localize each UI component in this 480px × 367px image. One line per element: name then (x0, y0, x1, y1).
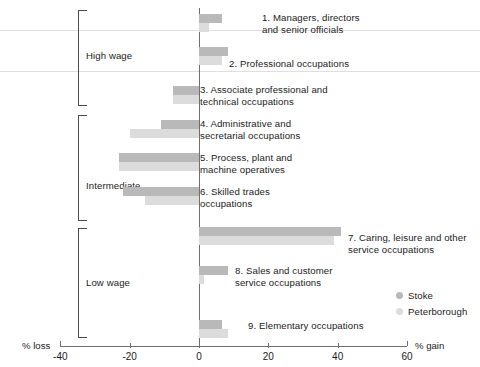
legend-label-peterborough: Peterborough (408, 306, 467, 317)
x-tick-20 (268, 343, 269, 348)
occupation-label-1: 1. Managers, directors and senior offici… (262, 12, 412, 35)
axis-caption-gain: % gain (415, 340, 444, 351)
bar-stoke-row-8 (199, 266, 228, 275)
bar-peterborough-row-5 (119, 162, 199, 171)
x-tick--40 (60, 341, 61, 346)
bar-peterborough-row-3 (173, 95, 199, 104)
occupation-label-2: 2. Professional occupations (229, 58, 429, 70)
bar-peterborough-row-7 (199, 236, 334, 245)
x-tick-0 (199, 343, 200, 348)
occupation-label-3: 3. Associate professional and technical … (200, 84, 370, 107)
occupation-label-8: 8. Sales and customer service occupation… (235, 265, 405, 288)
legend-label-stoke: Stoke (408, 290, 433, 301)
bar-stoke-row-4 (161, 120, 199, 129)
occupation-label-9: 9. Elementary occupations (248, 320, 428, 332)
x-tick-label--40: -40 (53, 351, 67, 362)
occupation-label-7: 7. Caring, leisure and other service occ… (348, 232, 480, 255)
bar-peterborough-row-4 (130, 129, 199, 138)
bar-peterborough-row-8 (199, 275, 204, 284)
bar-stoke-row-3 (173, 86, 199, 95)
bar-peterborough-row-6 (145, 196, 199, 205)
bar-stoke-row-7 (199, 227, 341, 236)
bar-stoke-row-9 (199, 320, 222, 329)
x-tick--20 (130, 343, 131, 348)
legend-item-stoke[interactable]: Stoke (396, 290, 433, 301)
x-tick-label-40: 40 (332, 351, 343, 362)
legend-swatch-peterborough (396, 308, 403, 315)
x-tick-label--20: -20 (122, 351, 136, 362)
occupation-label-4: 4. Administrative and secretarial occupa… (200, 118, 370, 141)
x-axis-line (60, 346, 407, 347)
bar-stoke-row-6 (123, 187, 199, 196)
x-tick-40 (338, 343, 339, 348)
bar-peterborough-row-2 (199, 56, 222, 65)
x-tick-label-0: 0 (196, 351, 202, 362)
x-tick-label-60: 60 (401, 351, 412, 362)
x-tick-60 (407, 341, 408, 346)
axis-caption-loss: % loss (22, 340, 50, 351)
bar-peterborough-row-1 (199, 23, 209, 32)
legend-item-peterborough[interactable]: Peterborough (396, 306, 467, 317)
bar-peterborough-row-9 (199, 329, 228, 338)
group-label-high-wage: High wage (86, 50, 132, 61)
legend-swatch-stoke (396, 292, 403, 299)
bar-stoke-row-1 (199, 14, 222, 23)
bar-stoke-row-2 (199, 47, 228, 56)
occupation-change-chart: High wage Intermediate Low wage 1. Manag… (0, 0, 480, 367)
group-label-low-wage: Low wage (86, 277, 130, 288)
plot-area: High wage Intermediate Low wage 1. Manag… (0, 0, 480, 340)
bar-stoke-row-5 (119, 153, 199, 162)
group-bracket-intermediate (78, 115, 87, 221)
occupation-label-5: 5. Process, plant and machine operatives (200, 152, 370, 175)
occupation-label-6: 6. Skilled trades occupations (200, 186, 370, 209)
x-tick-label-20: 20 (263, 351, 274, 362)
